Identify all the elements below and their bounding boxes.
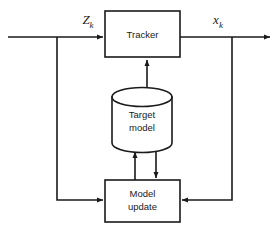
signal-input-subscript: k (90, 20, 95, 30)
node-target-model-label-line1: Target (129, 109, 156, 120)
node-target-model-label-line2: model (129, 122, 155, 133)
signal-label-output: xk (212, 12, 224, 30)
signal-label-input: Zk (82, 12, 94, 30)
node-model-update-label-line2: update (128, 201, 157, 212)
wire-output-branch-to-model-update (182, 37, 232, 200)
signal-output-subscript: k (219, 20, 224, 30)
block-diagram-canvas: Tracker Target model Model update Zk xk (0, 0, 279, 235)
wire-input-branch-to-model-update (57, 37, 103, 200)
node-tracker-label: Tracker (127, 29, 159, 40)
diagram-svg: Tracker Target model Model update Zk xk (0, 0, 279, 235)
node-model-update-label-line1: Model (130, 188, 156, 199)
node-target-model-cylinder-top[interactable] (112, 88, 172, 107)
